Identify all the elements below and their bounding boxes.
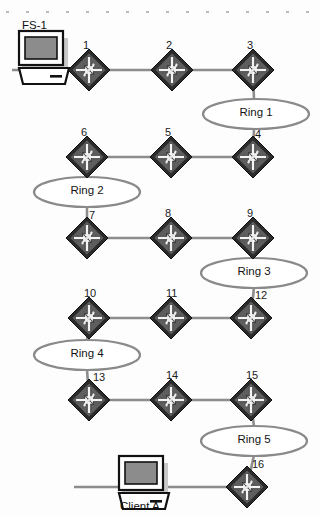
- ring-label: Ring 3: [214, 265, 294, 277]
- router-icon-7[interactable]: [66, 217, 108, 259]
- router-icon-5[interactable]: [150, 136, 192, 178]
- router-number-label: 1: [83, 39, 89, 51]
- router-icon-12[interactable]: [230, 297, 272, 339]
- router-icon-16[interactable]: [226, 466, 268, 508]
- ring-label: Ring 5: [214, 433, 294, 445]
- router-number-label: 7: [89, 209, 95, 221]
- client-a-label: Client A: [120, 500, 160, 512]
- speckle-mark: [246, 11, 249, 13]
- router-icon-3[interactable]: [232, 49, 274, 91]
- router-icon-15[interactable]: [230, 379, 272, 421]
- speckle-mark: [46, 11, 49, 13]
- router-number-label: 9: [247, 207, 253, 219]
- speckle-mark: [206, 11, 209, 13]
- router-number-label: 4: [255, 128, 261, 140]
- fs-1-workstation-icon: [19, 31, 69, 84]
- router-number-label: 10: [84, 287, 96, 299]
- router-number-label: 2: [166, 39, 172, 51]
- router-icon-6[interactable]: [66, 136, 108, 178]
- router-icon-10[interactable]: [68, 297, 110, 339]
- router-number-label: 11: [166, 287, 177, 299]
- router-number-label: 13: [93, 371, 105, 383]
- router-icon-8[interactable]: [150, 217, 192, 259]
- speckle-mark: [6, 11, 9, 13]
- speckle-mark: [266, 11, 269, 13]
- router-icon-9[interactable]: [232, 217, 274, 259]
- router-number-label: 6: [81, 126, 87, 138]
- host-layer: [19, 31, 169, 509]
- router-icon-1[interactable]: [68, 49, 110, 91]
- speckle-mark: [26, 11, 29, 13]
- router-number-label: 5: [165, 126, 171, 138]
- ring-label: Ring 1: [216, 106, 296, 118]
- speckle-mark: [306, 11, 309, 13]
- speckle-mark: [86, 11, 89, 13]
- ring-label: Ring 2: [47, 184, 127, 196]
- router-icon-2[interactable]: [151, 49, 193, 91]
- speckle-mark: [166, 11, 169, 13]
- router-number-label: 15: [246, 369, 258, 381]
- speckle-mark: [226, 11, 229, 13]
- network-topology-figure: Ring 1Ring 2Ring 3Ring 4Ring 51234567891…: [0, 0, 320, 515]
- speckle-mark: [106, 11, 109, 13]
- router-icon-4[interactable]: [232, 136, 274, 178]
- router-icon-13[interactable]: [68, 379, 110, 421]
- router-number-label: 16: [252, 458, 264, 470]
- router-number-label: 3: [247, 39, 253, 51]
- router-icon-14[interactable]: [150, 379, 192, 421]
- speckle-mark: [186, 11, 189, 13]
- router-icon-11[interactable]: [150, 297, 192, 339]
- speckle-mark: [126, 11, 129, 13]
- ring-label: Ring 4: [47, 347, 127, 359]
- router-number-label: 14: [166, 369, 178, 381]
- scan-speckle-row: [6, 11, 309, 13]
- speckle-mark: [286, 11, 289, 13]
- speckle-mark: [146, 11, 149, 13]
- router-number-label: 12: [255, 289, 267, 301]
- fs-1-label: FS-1: [22, 19, 47, 31]
- router-number-label: 8: [165, 207, 171, 219]
- speckle-mark: [66, 11, 69, 13]
